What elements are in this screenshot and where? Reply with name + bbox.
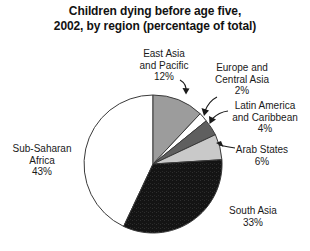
- pie-label-arab-states: Arab States 6%: [229, 144, 295, 167]
- pie-label-south-asia-value: 33%: [218, 217, 288, 229]
- pie-label-subsaharan-line-1: Sub-Saharan: [4, 143, 80, 155]
- pie-label-east-asia-line-2: and Pacific: [128, 60, 200, 72]
- pie-label-east-asia-and-pacific: East Asia and Pacific 12%: [128, 48, 200, 83]
- pie-label-east-asia-line-1: East Asia: [128, 48, 200, 60]
- pie-label-latin-america-and-caribbean: Latin America and Caribbean 4%: [222, 100, 308, 135]
- pie-label-south-asia: South Asia 33%: [218, 205, 288, 228]
- pie-label-europe-and-central-asia: Europe and Central Asia 2%: [203, 62, 281, 97]
- pie-label-europe-line-2: Central Asia: [203, 74, 281, 86]
- pie-label-sub-saharan-africa: Sub-Saharan Africa 43%: [4, 143, 80, 178]
- pie-label-europe-value: 2%: [203, 85, 281, 97]
- pie-chart-figure: Children dying before age five, 2002, by…: [0, 0, 310, 251]
- pie-label-latin-line-2: and Caribbean: [222, 112, 308, 124]
- pie-label-europe-line-1: Europe and: [203, 62, 281, 74]
- pie-label-arab-value: 6%: [229, 156, 295, 168]
- pie-label-subsaharan-line-2: Africa: [4, 155, 80, 167]
- pie-label-latin-value: 4%: [222, 123, 308, 135]
- pie-label-latin-line-1: Latin America: [222, 100, 308, 112]
- pie-label-south-asia-line-1: South Asia: [218, 205, 288, 217]
- pie-label-arab-line-1: Arab States: [229, 144, 295, 156]
- pie-label-subsaharan-value: 43%: [4, 166, 80, 178]
- pie-label-east-asia-value: 12%: [128, 71, 200, 83]
- leader-line-europe: [202, 97, 218, 116]
